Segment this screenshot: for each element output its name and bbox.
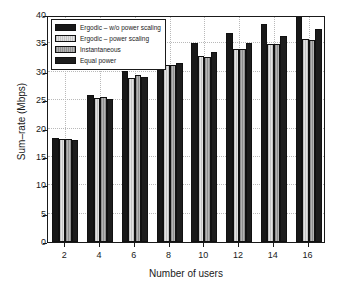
y-axis-title: Sum–rate (Mbps) bbox=[16, 52, 27, 192]
legend-swatch bbox=[55, 35, 76, 42]
bar bbox=[141, 77, 148, 242]
bar bbox=[280, 36, 287, 242]
x-tick-label: 10 bbox=[188, 250, 218, 260]
legend-label: Ergodic – w/o power scaling bbox=[80, 24, 161, 32]
legend-item: Equal power bbox=[55, 55, 161, 66]
x-tick-label: 16 bbox=[293, 250, 323, 260]
y-tick-label: 5 bbox=[6, 210, 46, 219]
bar bbox=[107, 99, 114, 242]
x-tick-mark bbox=[203, 243, 204, 247]
y-tick-label: 0 bbox=[6, 238, 46, 247]
x-tick-label: 12 bbox=[223, 250, 253, 260]
x-tick-mark bbox=[134, 243, 135, 247]
x-tick-label: 4 bbox=[84, 250, 114, 260]
x-tick-mark bbox=[99, 243, 100, 247]
legend-label: Instantaneous bbox=[80, 46, 121, 54]
y-tick-label: 40 bbox=[6, 11, 46, 20]
x-tick-mark bbox=[308, 243, 309, 247]
x-tick-mark bbox=[169, 243, 170, 247]
x-tick-label: 6 bbox=[119, 250, 149, 260]
legend-swatch bbox=[55, 57, 76, 64]
x-tick-mark bbox=[273, 243, 274, 247]
x-axis-title: Number of users bbox=[47, 268, 325, 279]
legend-item: Instantaneous bbox=[55, 44, 161, 55]
x-tick-label: 14 bbox=[258, 250, 288, 260]
legend-swatch bbox=[55, 24, 76, 31]
y-tick-label: 35 bbox=[6, 39, 46, 48]
legend: Ergodic – w/o power scalingErgodic – pow… bbox=[51, 19, 166, 70]
bar bbox=[315, 29, 322, 242]
legend-label: Equal power bbox=[80, 57, 116, 65]
figure: 0510152025303540 246810121416 Sum–rate (… bbox=[0, 0, 342, 290]
legend-item: Ergodic – w/o power scaling bbox=[55, 22, 161, 33]
legend-label: Ergodic – power scaling bbox=[80, 35, 149, 43]
bar bbox=[246, 43, 253, 242]
bar bbox=[72, 140, 79, 242]
x-tick-label: 2 bbox=[49, 250, 79, 260]
bar bbox=[176, 63, 183, 242]
bar bbox=[211, 52, 218, 242]
x-tick-label: 8 bbox=[154, 250, 184, 260]
x-tick-mark bbox=[64, 243, 65, 247]
x-tick-mark bbox=[238, 243, 239, 247]
legend-item: Ergodic – power scaling bbox=[55, 33, 161, 44]
legend-swatch bbox=[55, 46, 76, 53]
